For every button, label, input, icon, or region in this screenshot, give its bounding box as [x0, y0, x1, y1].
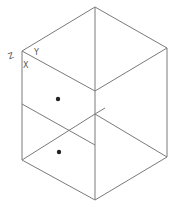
lower-point-marker[interactable] — [57, 150, 61, 154]
edge-center-righttop — [95, 48, 167, 91]
upper-point-marker[interactable] — [56, 97, 60, 101]
axis-label-z: Z — [7, 51, 16, 62]
cad-viewport[interactable]: Z Y X — [0, 0, 176, 207]
edge-lefttop-center — [22, 51, 95, 91]
axis-label-x: X — [23, 61, 29, 70]
edge-centerupper-rightbottom — [95, 114, 167, 157]
edge-centerupper-leftmid-ext — [95, 108, 105, 114]
axis-label-y: Y — [33, 48, 39, 57]
wireframe-drawing: Z Y X — [0, 0, 176, 207]
edge-leftmid-centerlower — [22, 104, 95, 145]
